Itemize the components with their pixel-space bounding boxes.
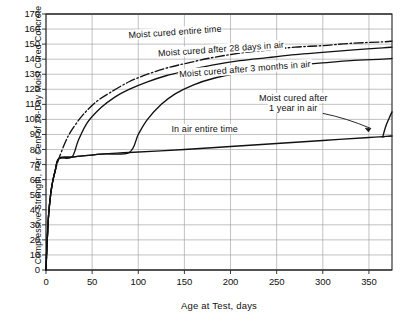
x-tick-100: 100 bbox=[123, 276, 153, 287]
chart-figure: Compressive Strength, Per Cent of 28-Day… bbox=[0, 0, 406, 323]
y-tick-150: 150 bbox=[18, 38, 40, 49]
y-tick-100: 100 bbox=[18, 113, 40, 124]
y-tick-120: 120 bbox=[18, 83, 40, 94]
x-axis-title: Age at Test, days bbox=[46, 300, 392, 311]
y-tick-170: 170 bbox=[18, 8, 40, 19]
x-tick-200: 200 bbox=[216, 276, 246, 287]
x-tick-50: 50 bbox=[77, 276, 107, 287]
y-tick-130: 130 bbox=[18, 68, 40, 79]
y-tick-110: 110 bbox=[18, 98, 40, 109]
y-tick-10: 10 bbox=[18, 249, 40, 260]
x-tick-0: 0 bbox=[31, 276, 61, 287]
y-tick-140: 140 bbox=[18, 53, 40, 64]
curve-label-moist-1-year-line1: Moist cured after bbox=[258, 93, 329, 103]
curve-moist-cured-after-1-year-in-air bbox=[383, 112, 392, 137]
curve-moist-cured-after-3-months-in-air bbox=[46, 58, 392, 270]
annotation-leader-line bbox=[323, 113, 371, 128]
y-tick-60: 60 bbox=[18, 174, 40, 185]
x-tick-300: 300 bbox=[308, 276, 338, 287]
curve-in-air-entire-time bbox=[46, 136, 392, 270]
y-tick-30: 30 bbox=[18, 219, 40, 230]
curve-moist-cured-after-28-days-in-air bbox=[46, 47, 392, 270]
y-tick-90: 90 bbox=[18, 128, 40, 139]
y-tick-50: 50 bbox=[18, 189, 40, 200]
curve-label-moist-1-year-line2: 1 year in air bbox=[268, 103, 318, 113]
y-tick-160: 160 bbox=[18, 23, 40, 34]
y-tick-70: 70 bbox=[18, 159, 40, 170]
y-tick-80: 80 bbox=[18, 144, 40, 155]
x-tick-350: 350 bbox=[354, 276, 384, 287]
x-tick-150: 150 bbox=[169, 276, 199, 287]
y-tick-0: 0 bbox=[18, 264, 40, 275]
y-tick-20: 20 bbox=[18, 234, 40, 245]
y-tick-40: 40 bbox=[18, 204, 40, 215]
x-tick-250: 250 bbox=[262, 276, 292, 287]
annotation-arrowhead bbox=[365, 128, 371, 132]
curve-label-in-air-entire-time: In air entire time bbox=[171, 124, 239, 134]
